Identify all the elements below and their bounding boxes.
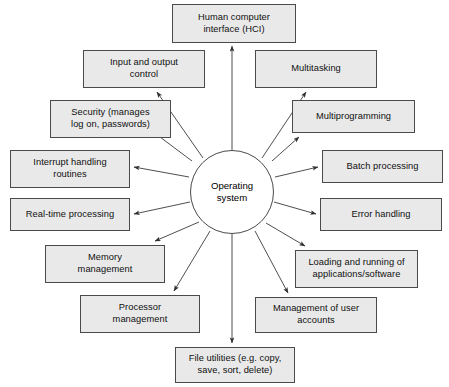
node-box-interrupt-handling-routines: Interrupt handling routines (10, 150, 130, 188)
node-box-multiprogramming: Multiprogramming (292, 100, 415, 133)
node-box-processor-management: Processor management (80, 295, 200, 333)
node-label-multitasking: Multitasking (291, 63, 341, 75)
node-label-loading-and-running: Loading and running of applications/soft… (308, 257, 404, 281)
node-box-file-utilities: File utilities (e.g. copy, save, sort, d… (175, 347, 295, 383)
node-box-loading-and-running: Loading and running of applications/soft… (295, 250, 418, 288)
node-label-human-computer-interface: Human computer interface (HCI) (198, 12, 270, 36)
node-label-processor-management: Processor management (113, 302, 168, 326)
arrow-to-management-of-user-accounts (255, 231, 288, 293)
node-label-file-utilities: File utilities (e.g. copy, save, sort, d… (189, 353, 282, 377)
node-box-input-and-output-control: Input and output control (83, 50, 205, 88)
arrow-to-batch-processing (275, 167, 318, 177)
node-label-memory-management: Memory management (78, 252, 133, 276)
arrow-to-processor-management (174, 231, 210, 291)
arrow-to-loading-and-running (266, 223, 305, 246)
node-label-input-and-output-control: Input and output control (110, 57, 178, 81)
node-label-management-of-user-accounts: Management of user accounts (273, 303, 359, 327)
operating-system-diagram: Operating system Human computer interfac… (0, 0, 449, 387)
node-box-real-time-processing: Real-time processing (10, 198, 130, 231)
node-box-multitasking: Multitasking (255, 50, 377, 88)
center-node-operating-system: Operating system (190, 150, 274, 234)
node-label-real-time-processing: Real-time processing (26, 209, 114, 221)
node-label-batch-processing: Batch processing (346, 161, 418, 173)
node-box-error-handling: Error handling (320, 198, 442, 231)
node-label-error-handling: Error handling (351, 209, 410, 221)
node-box-memory-management: Memory management (45, 245, 165, 283)
node-label-multiprogramming: Multiprogramming (316, 111, 391, 123)
arrow-to-interrupt-handling-routines (134, 167, 189, 177)
node-box-batch-processing: Batch processing (322, 150, 443, 183)
node-box-human-computer-interface: Human computer interface (HCI) (172, 4, 296, 43)
arrow-to-multiprogramming (272, 137, 299, 161)
center-node-label: Operating system (211, 180, 253, 205)
arrow-to-memory-management (155, 222, 199, 241)
node-box-security: Security (manages log on, passwords) (50, 100, 171, 138)
node-label-interrupt-handling-routines: Interrupt handling routines (33, 157, 106, 181)
node-box-management-of-user-accounts: Management of user accounts (255, 297, 377, 333)
arrow-to-error-handling (274, 202, 316, 214)
arrow-to-real-time-processing (134, 202, 190, 214)
node-label-security: Security (manages log on, passwords) (71, 107, 150, 131)
